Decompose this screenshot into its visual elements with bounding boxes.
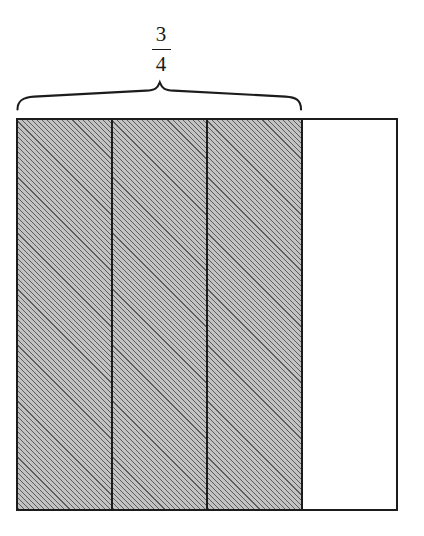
fraction-bar-divider [152,49,171,50]
bar-cell-1 [18,120,111,509]
bar-cell-3 [206,120,301,509]
fraction-numerator: 3 [138,22,184,47]
bar-cell-2 [111,120,206,509]
fraction-bar-diagram: 3 4 [0,0,424,536]
bar-cell-4 [301,120,396,509]
fraction-label: 3 4 [138,22,184,77]
fraction-denominator: 4 [138,52,184,77]
bar-model [16,118,398,511]
brace-container [0,78,424,112]
curly-brace-up-icon [0,78,424,112]
